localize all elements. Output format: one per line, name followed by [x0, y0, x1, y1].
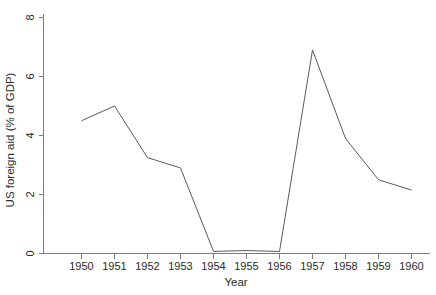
x-axis-ticks: [82, 254, 412, 259]
x-tick-label-1959: 1959: [366, 260, 390, 272]
x-tick-label-1950: 1950: [69, 260, 93, 272]
y-axis-ticks: [39, 18, 44, 254]
y-tick-label-6: 6: [24, 73, 36, 79]
y-tick-label-0: 0: [24, 250, 36, 256]
x-tick-label-1954: 1954: [201, 260, 225, 272]
x-tick-label-1951: 1951: [102, 260, 126, 272]
x-tick-label-1958: 1958: [333, 260, 357, 272]
x-tick-label-1956: 1956: [267, 260, 291, 272]
x-tick-label-1955: 1955: [234, 260, 258, 272]
x-tick-label-1960: 1960: [399, 260, 423, 272]
y-axis-tick-labels: 8 6 4 2 0: [24, 14, 36, 256]
y-tick-label-4: 4: [24, 132, 36, 138]
x-tick-label-1952: 1952: [135, 260, 159, 272]
chart-figure: 8 6 4 2 0 US foreign aid (% of GDP) 1950…: [0, 0, 436, 295]
y-tick-label-2: 2: [24, 191, 36, 197]
series-line-us-foreign-aid: [82, 50, 412, 251]
x-tick-label-1953: 1953: [168, 260, 192, 272]
x-axis-tick-labels: 1950 1951 1952 1953 1954 1955 1956 1957 …: [69, 260, 423, 272]
x-axis-title: Year: [224, 276, 247, 288]
y-tick-label-8: 8: [24, 14, 36, 20]
y-axis-title: US foreign aid (% of GDP): [4, 72, 16, 207]
x-tick-label-1957: 1957: [300, 260, 324, 272]
line-chart-plot: 8 6 4 2 0 US foreign aid (% of GDP) 1950…: [0, 0, 436, 295]
